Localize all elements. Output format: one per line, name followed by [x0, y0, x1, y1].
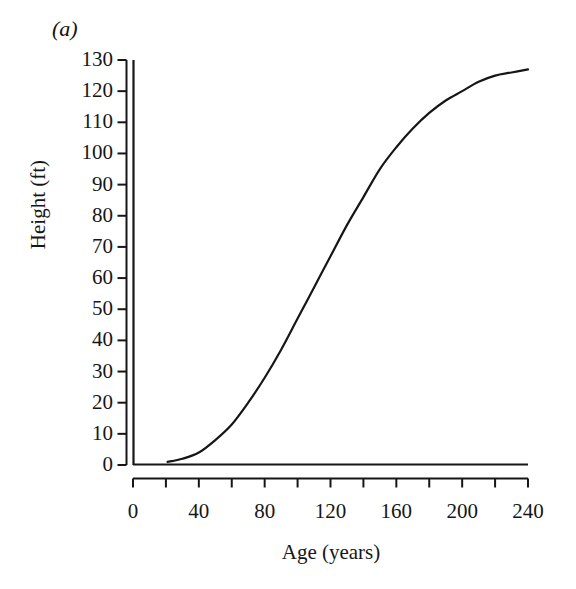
y-tick-label: 130 [53, 49, 113, 70]
x-tick-label: 200 [427, 501, 497, 522]
y-tick-label: 120 [53, 80, 113, 101]
y-tick-label: 80 [53, 205, 113, 226]
x-tick-label: 80 [230, 501, 300, 522]
axis-lines [133, 60, 528, 465]
figure-panel-a: (a) Height (ft) 010203040506070809010011… [0, 0, 576, 589]
y-tick-label: 110 [53, 111, 113, 132]
y-tick-label: 50 [53, 298, 113, 319]
y-tick-label: 90 [53, 174, 113, 195]
x-tick-label: 40 [164, 501, 234, 522]
x-axis-tick-marks [133, 479, 528, 488]
y-axis-title: Height (ft) [26, 105, 51, 305]
y-tick-label: 0 [53, 454, 113, 475]
y-tick-label: 10 [53, 423, 113, 444]
y-axis-tick-marks [118, 60, 127, 465]
x-axis-tick-labels: 04080120160200240 [0, 501, 576, 531]
y-tick-label: 20 [53, 392, 113, 413]
x-tick-label: 0 [98, 501, 168, 522]
data-series-group [168, 69, 528, 462]
x-tick-label: 160 [361, 501, 431, 522]
y-tick-label: 40 [53, 329, 113, 350]
y-tick-label: 60 [53, 267, 113, 288]
y-tick-label: 70 [53, 236, 113, 257]
y-tick-label: 100 [53, 142, 113, 163]
x-tick-label: 240 [493, 501, 563, 522]
growth-curve-line [168, 69, 528, 462]
y-tick-label: 30 [53, 361, 113, 382]
x-tick-label: 120 [296, 501, 366, 522]
x-axis-title: Age (years) [133, 540, 529, 565]
